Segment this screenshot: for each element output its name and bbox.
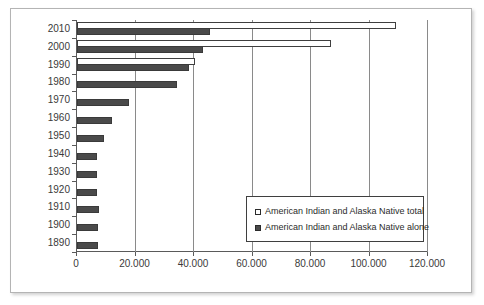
bar-alone (77, 64, 189, 71)
chart-legend: American Indian and Alaska Native totalA… (246, 196, 424, 242)
legend-swatch-alone-icon (255, 225, 261, 231)
y-axis-tick-label: 1900 (48, 220, 70, 230)
y-axis-tick (72, 38, 76, 39)
y-axis-tick-label: 1910 (48, 202, 70, 212)
x-axis-tick-label: 100.000 (339, 258, 399, 270)
y-axis-tick (72, 145, 76, 146)
gridline (135, 20, 136, 252)
y-axis-tick-label: 1920 (48, 185, 70, 195)
y-axis-tick (72, 181, 76, 182)
x-axis-tick-label: 60.000 (222, 258, 282, 270)
legend-entry: American Indian and Alaska Native total (255, 206, 417, 217)
y-axis-tick-label: 1890 (48, 238, 70, 248)
x-axis-tick-label: 20.000 (105, 258, 165, 270)
x-axis-tick-label: 40.000 (163, 258, 223, 270)
y-axis-tick-label: 1950 (48, 131, 70, 141)
x-axis-tick (76, 252, 77, 256)
y-axis-tick-label: 2000 (48, 42, 70, 52)
x-axis-tick (135, 252, 136, 256)
legend-label: American Indian and Alaska Native alone (265, 222, 429, 233)
y-axis-tick-label: 1930 (48, 167, 70, 177)
x-axis-tick (369, 252, 370, 256)
y-axis-tick (72, 74, 76, 75)
bar-alone (77, 135, 104, 142)
y-axis-tick-label: 1990 (48, 60, 70, 70)
legend-entry: American Indian and Alaska Native alone (255, 222, 417, 233)
legend-swatch-total-icon (255, 209, 261, 215)
bar-alone (77, 171, 97, 178)
bar-alone (77, 117, 112, 124)
y-axis-tick (72, 198, 76, 199)
chart-container: 2010200019901980197019601950194019301920… (0, 0, 484, 305)
bar-alone (77, 28, 210, 35)
bar-alone (77, 224, 98, 231)
x-axis-tick (310, 252, 311, 256)
y-axis-tick (72, 127, 76, 128)
bar-alone (77, 153, 97, 160)
y-axis-tick-label: 1970 (48, 95, 70, 105)
x-axis-tick-label: 80.000 (280, 258, 340, 270)
y-axis-tick (72, 216, 76, 217)
y-axis-tick-label: 2010 (48, 24, 70, 34)
y-axis-tick (72, 20, 76, 21)
y-axis-tick (72, 91, 76, 92)
bar-alone (77, 46, 203, 53)
y-axis-tick (72, 252, 76, 253)
y-axis-tick-label: 1980 (48, 77, 70, 87)
legend-label: American Indian and Alaska Native total (265, 206, 424, 217)
bar-alone (77, 206, 99, 213)
y-axis-labels: 2010200019901980197019601950194019301920… (0, 20, 70, 252)
x-axis-tick-label: 120.000 (397, 258, 457, 270)
y-axis-tick (72, 56, 76, 57)
y-axis-tick-label: 1960 (48, 113, 70, 123)
gridline (193, 20, 194, 252)
bar-alone (77, 189, 97, 196)
gridline (427, 20, 428, 252)
y-axis-tick (72, 109, 76, 110)
x-axis-tick (193, 252, 194, 256)
y-axis-tick (72, 234, 76, 235)
x-axis-tick-label: 0 (46, 258, 106, 270)
x-axis-tick (252, 252, 253, 256)
y-axis-tick-label: 1940 (48, 149, 70, 159)
bar-alone (77, 81, 177, 88)
bar-alone (77, 242, 98, 249)
y-axis-tick (72, 163, 76, 164)
x-axis-tick (427, 252, 428, 256)
bar-alone (77, 99, 129, 106)
